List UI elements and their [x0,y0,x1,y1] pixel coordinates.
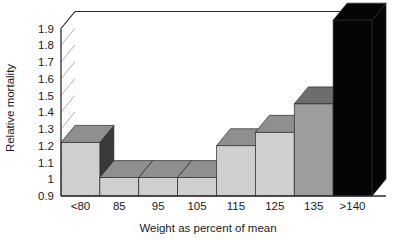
y-tick-label: 1.3 [38,123,54,135]
y-tick-label: 1.9 [38,23,54,35]
y-tick-label: 0.9 [38,190,54,202]
y-tick-label: 1.6 [38,73,54,85]
y-tick-label: 1.5 [38,90,54,102]
y-tick-label: 1 [48,173,54,185]
x-tick-label: 115 [227,200,245,212]
y-tick-label: 1.1 [38,157,54,169]
x-tick-label: 95 [152,200,165,212]
x-tick-label: 85 [113,200,126,212]
relative-mortality-bar-chart: 0.911.11.21.31.41.51.61.71.81.9 <8085951… [0,0,405,240]
y-tick-label: 1.7 [38,56,54,68]
x-tick-label: 135 [304,200,323,212]
x-tick-label: <80 [71,200,91,212]
x-tick-label: >140 [340,200,366,212]
x-tick-label: 105 [187,200,206,212]
y-tick-label: 1.8 [38,39,54,51]
y-tick-label: 1.4 [38,106,55,118]
x-axis-title: Weight as percent of mean [139,222,276,234]
y-axis-title: Relative mortality [4,64,16,152]
chart-canvas: 0.911.11.21.31.41.51.61.71.81.9 <8085951… [0,0,405,240]
bar-140 [333,3,386,196]
y-tick-label: 1.2 [38,140,54,152]
x-tick-label: 125 [265,200,284,212]
